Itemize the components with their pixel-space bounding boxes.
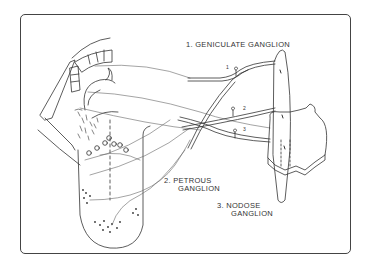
teeth <box>70 50 112 92</box>
nerve-bundles <box>178 61 275 149</box>
circumvallate-papillae <box>87 136 129 156</box>
taste-pathway-illustration <box>0 0 367 268</box>
label-subtext: GANGLION <box>164 185 220 193</box>
mouth-outline <box>38 38 110 165</box>
nerve-number-2: 2 <box>243 104 246 112</box>
brainstem <box>268 50 327 203</box>
papillae-texture <box>75 109 98 140</box>
fungiform-papillae <box>82 189 139 233</box>
label-geniculate-ganglion: 1. GENICULATE GANGLION <box>186 41 290 49</box>
label-nodose-ganglion: 3. NODOSE GANGLION <box>217 202 273 218</box>
label-petrous-ganglion: 2. PETROUS GANGLION <box>164 177 220 193</box>
label-text: 1. GENICULATE GANGLION <box>186 40 290 49</box>
label-subtext: GANGLION <box>217 210 273 218</box>
nerve-number-1: 1 <box>226 63 229 71</box>
nerve-number-3: 3 <box>243 125 246 133</box>
